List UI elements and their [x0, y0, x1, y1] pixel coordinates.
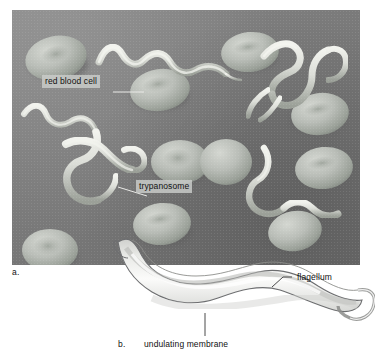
panel-letter-b: b.	[118, 339, 126, 349]
label-flagellum: flagellum	[297, 272, 332, 283]
leader-line-flagellum	[272, 277, 292, 287]
label-undulating-membrane: undulating membrane	[144, 339, 228, 350]
panel-b-leader-lines	[0, 0, 375, 356]
figure-trypanosome-red-blood-cells: red blood cell trypanosome a.	[0, 0, 375, 356]
